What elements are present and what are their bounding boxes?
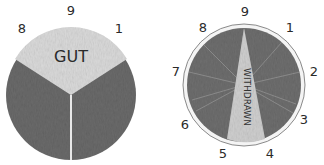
- withdrawn-tick-8: 8: [199, 20, 207, 35]
- gut-tick-9: 9: [67, 3, 75, 18]
- diagram-canvas: GUT 8 9 1 WITHDRAWN 9 1 2 3 4 5 6 7 8: [0, 0, 324, 165]
- gut-label: GUT: [54, 47, 88, 66]
- withdrawn-label: WITHDRAWN: [242, 68, 252, 126]
- withdrawn-dial: WITHDRAWN 9 1 2 3 4 5 6 7 8: [172, 4, 318, 161]
- withdrawn-tick-2: 2: [310, 64, 318, 79]
- withdrawn-tick-5: 5: [219, 146, 227, 161]
- gut-tick-1: 1: [115, 21, 123, 36]
- gut-tick-8: 8: [18, 21, 26, 36]
- gut-dial: GUT 8 9 1: [6, 3, 136, 161]
- withdrawn-tick-7: 7: [172, 64, 180, 79]
- withdrawn-tick-9: 9: [241, 4, 249, 19]
- withdrawn-tick-6: 6: [181, 117, 189, 132]
- withdrawn-tick-3: 3: [300, 112, 308, 127]
- withdrawn-tick-4: 4: [266, 146, 274, 161]
- withdrawn-tick-1: 1: [286, 20, 294, 35]
